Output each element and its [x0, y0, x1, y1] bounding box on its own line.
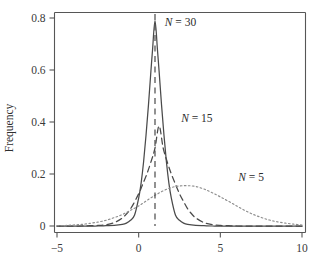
- series-annotation: N = 15: [180, 112, 213, 124]
- series-annotations-group: N = 30N = 15N = 5: [164, 16, 264, 183]
- series-annotation: N = 5: [237, 171, 264, 183]
- y-tick-label: 0.6: [31, 64, 46, 76]
- curve-series-1: [57, 21, 302, 226]
- chart-figure: 00.20.40.60.8 −50510 N = 30N = 15N = 5 F…: [0, 0, 316, 262]
- y-tick-label: 0: [40, 220, 46, 232]
- y-tick-label: 0.8: [31, 12, 46, 24]
- y-tick-label: 0.2: [31, 168, 46, 180]
- x-axis-ticks-group: −50510: [51, 233, 308, 254]
- x-tick-label: 5: [217, 242, 223, 254]
- curve-series-2: [57, 126, 302, 226]
- y-tick-label: 0.4: [31, 116, 46, 128]
- y-axis-ticks-group: 00.20.40.60.8: [31, 12, 54, 232]
- y-axis-title: Frequency: [3, 103, 16, 152]
- x-tick-label: 10: [296, 242, 308, 254]
- distribution-plot: 00.20.40.60.8 −50510 N = 30N = 15N = 5 F…: [0, 0, 316, 262]
- x-tick-label: −5: [51, 242, 63, 254]
- series-annotation: N = 30: [164, 16, 197, 28]
- x-tick-label: 0: [136, 242, 142, 254]
- curves-group: [57, 21, 302, 226]
